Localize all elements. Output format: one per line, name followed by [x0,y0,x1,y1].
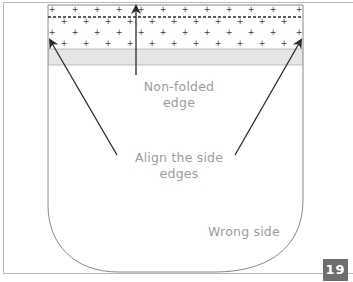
svg-text:+: + [296,5,303,14]
svg-text:+: + [160,5,167,14]
svg-text:+: + [61,39,68,48]
svg-text:+: + [296,28,303,37]
svg-text:+: + [116,28,123,37]
label-align-side-edges: Align the side edges [116,150,242,182]
svg-text:+: + [182,5,189,14]
svg-text:+: + [105,39,112,48]
svg-text:+: + [237,17,244,26]
svg-text:+: + [281,17,288,26]
svg-text:+: + [215,39,222,48]
svg-text:+: + [270,5,277,14]
svg-text:+: + [94,28,101,37]
svg-text:+: + [138,5,145,14]
label-wrong-side: Wrong side [196,224,292,240]
svg-text:+: + [149,17,156,26]
svg-text:+: + [127,39,134,48]
svg-text:+: + [171,39,178,48]
svg-text:+: + [127,17,134,26]
svg-text:+: + [149,39,156,48]
label-non-folded-line2: edge [116,95,242,111]
svg-text:+: + [270,28,277,37]
svg-text:+: + [248,5,255,14]
svg-text:+: + [215,17,222,26]
svg-text:+: + [72,5,79,14]
svg-text:+: + [171,17,178,26]
svg-text:+: + [105,17,112,26]
svg-text:+: + [226,28,233,37]
svg-text:+: + [61,17,68,26]
svg-text:+: + [83,39,90,48]
svg-text:+: + [281,39,288,48]
svg-text:+: + [49,28,56,37]
svg-text:+: + [94,5,101,14]
svg-text:+: + [193,39,200,48]
label-align-line2: edges [116,166,242,182]
page-number-badge: 19 [323,259,348,281]
svg-text:+: + [204,28,211,37]
label-align-line1: Align the side [116,150,242,166]
label-wrong-side-text: Wrong side [196,224,292,240]
label-non-folded-edge: Non-folded edge [116,79,242,111]
svg-text:+: + [83,17,90,26]
svg-text:+: + [248,28,255,37]
svg-text:+: + [204,5,211,14]
svg-text:+: + [237,39,244,48]
svg-text:+: + [259,39,266,48]
svg-text:+: + [182,28,189,37]
svg-text:+: + [138,28,145,37]
svg-text:+: + [259,17,266,26]
svg-text:+: + [226,5,233,14]
label-non-folded-line1: Non-folded [116,79,242,95]
svg-text:+: + [160,28,167,37]
svg-text:+: + [72,28,79,37]
svg-text:+: + [193,17,200,26]
svg-text:+: + [116,5,123,14]
svg-text:+: + [49,5,56,14]
seam-band [49,49,303,65]
